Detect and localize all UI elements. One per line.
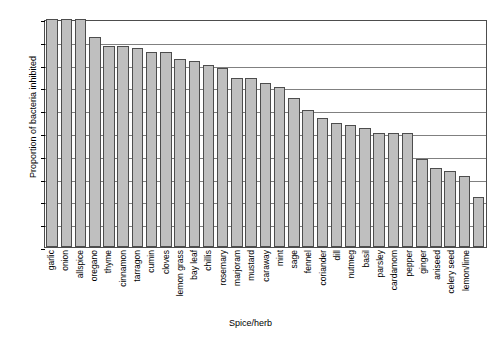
x-axis-title: Spice/herb (0, 318, 501, 328)
bar-slot (216, 21, 230, 247)
x-tick-label: thyme (104, 250, 113, 273)
bar (359, 128, 371, 247)
x-tick-slot: coriander (316, 250, 330, 328)
bar (245, 78, 257, 247)
x-tick-slot: pepper (401, 250, 415, 328)
bar (46, 19, 58, 247)
bar (459, 176, 471, 247)
bar (103, 46, 115, 247)
x-tick-label: ginger (418, 250, 427, 274)
bar-slot (59, 21, 73, 247)
x-tick-slot: rosemary (216, 250, 230, 328)
x-tick-label: mint (275, 250, 284, 266)
bar-chart-figure: Proportion of bacteria inhibited 10.90.8… (0, 0, 501, 339)
bar-slot (457, 21, 471, 247)
bar (317, 118, 329, 247)
x-tick-slot (473, 250, 487, 328)
x-tick-label: coriander (318, 250, 327, 285)
x-tick-slot: sage (287, 250, 301, 328)
bar-slot (429, 21, 443, 247)
bar-slot (45, 21, 59, 247)
bar (274, 87, 286, 247)
bar (388, 133, 400, 247)
x-tick-label: marjoram (233, 250, 242, 286)
y-axis-title: Proportion of bacteria inhibited (28, 17, 38, 217)
bar-slot (159, 21, 173, 247)
x-tick-slot: garlic (44, 250, 58, 328)
x-tick-slot: thyme (101, 250, 115, 328)
x-tick-label: celery seed (447, 250, 456, 293)
x-tick-slot: chillis (201, 250, 215, 328)
bar-slot (329, 21, 343, 247)
x-tick-slot: tarragon (130, 250, 144, 328)
x-tick-slot: parsley (373, 250, 387, 328)
bar (146, 52, 158, 247)
x-tick-slot: ginger (416, 250, 430, 328)
bar-slot (244, 21, 258, 247)
x-tick-label: tarragon (132, 250, 141, 282)
bar (89, 37, 101, 247)
x-tick-label: dill (333, 250, 342, 260)
x-tick-label: mustard (247, 250, 256, 281)
x-tick-label: aniseed (433, 250, 442, 280)
x-tick-slot: oregano (87, 250, 101, 328)
x-tick-slot: cloves (158, 250, 172, 328)
bar (402, 133, 414, 247)
bar-slot (145, 21, 159, 247)
bar-series (45, 21, 486, 247)
bar (174, 59, 186, 247)
bar (117, 46, 129, 247)
x-tick-label: fennel (304, 250, 313, 273)
bar (331, 123, 343, 247)
x-tick-slot: lemon/lime (459, 250, 473, 328)
x-tick-label: cumin (147, 250, 156, 273)
x-tick-label: cardamom (390, 250, 399, 290)
bar-slot (187, 21, 201, 247)
x-tick-label: basil (361, 250, 370, 267)
x-tick-label: cinnamon (118, 250, 127, 287)
bar-slot (201, 21, 215, 247)
x-tick-label: nutmeg (347, 250, 356, 278)
bar (260, 83, 272, 247)
x-tick-slot: dill (330, 250, 344, 328)
x-tick-slot: cardamom (387, 250, 401, 328)
x-tick-slot: basil (359, 250, 373, 328)
bar (345, 125, 357, 247)
x-tick-label: bay leaf (190, 250, 199, 280)
bar (430, 168, 442, 247)
bar-slot (102, 21, 116, 247)
bar-slot (358, 21, 372, 247)
bar-slot (230, 21, 244, 247)
x-tick-slot: nutmeg (344, 250, 358, 328)
x-tick-label: rosemary (218, 250, 227, 285)
x-tick-label: lemon grass (175, 250, 184, 296)
bar-slot (258, 21, 272, 247)
bar-slot (88, 21, 102, 247)
bar-slot (116, 21, 130, 247)
bar-slot (287, 21, 301, 247)
x-tick-slot: mint (273, 250, 287, 328)
x-tick-slot: mustard (244, 250, 258, 328)
bar-slot (443, 21, 457, 247)
bar (189, 61, 201, 247)
x-tick-slot: aniseed (430, 250, 444, 328)
x-tick-label: oregano (90, 250, 99, 281)
bar (444, 171, 456, 247)
bar-slot (386, 21, 400, 247)
x-tick-label: garlic (47, 250, 56, 270)
x-tick-label: pepper (404, 250, 413, 276)
x-tick-slot: fennel (301, 250, 315, 328)
x-tick-label: chillis (204, 250, 213, 271)
x-tick-label: caraway (261, 250, 270, 282)
x-tick-slot: lemon grass (173, 250, 187, 328)
x-tick-label: allspice (75, 250, 84, 278)
bar-slot (472, 21, 486, 247)
x-tick-slot: cumin (144, 250, 158, 328)
bar-slot (273, 21, 287, 247)
bar-slot (173, 21, 187, 247)
bar-slot (315, 21, 329, 247)
bar-slot (344, 21, 358, 247)
bar (75, 19, 87, 247)
x-tick-slot: bay leaf (187, 250, 201, 328)
bar-slot (73, 21, 87, 247)
